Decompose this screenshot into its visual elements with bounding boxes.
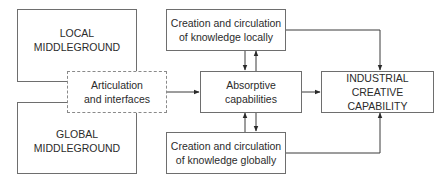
- creation-global-label: Creation and circulation of knowledge gl…: [171, 139, 281, 167]
- absorptive-label: Absorptive capabilities: [225, 78, 277, 106]
- creation-local-label: Creation and circulation of knowledge lo…: [171, 16, 281, 44]
- industrial-label: INDUSTRIAL CREATIVE CAPABILITY: [322, 71, 433, 113]
- arrow-global-to-industrial: [286, 113, 380, 153]
- creation-global-box: Creation and circulation of knowledge gl…: [166, 132, 286, 174]
- arrow-local-to-industrial: [286, 30, 380, 70]
- local-middleground-label: LOCAL MIDDLEGROUND: [34, 26, 120, 54]
- articulation-box: Articulation and interfaces: [67, 71, 167, 113]
- absorptive-box: Absorptive capabilities: [200, 71, 302, 113]
- creation-local-box: Creation and circulation of knowledge lo…: [166, 9, 286, 51]
- articulation-label: Articulation and interfaces: [84, 78, 150, 106]
- global-middleground-label: GLOBAL MIDDLEGROUND: [34, 127, 120, 155]
- industrial-box: INDUSTRIAL CREATIVE CAPABILITY: [321, 71, 434, 113]
